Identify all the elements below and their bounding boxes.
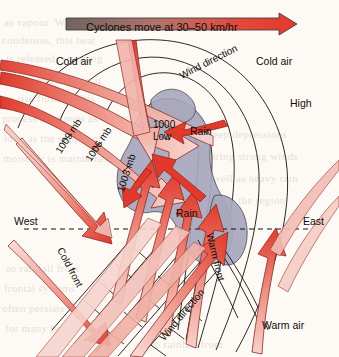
label-cold-air-right: Cold air [256, 56, 292, 67]
cyclone-diagram-svg [0, 0, 339, 357]
label-west: West [14, 216, 38, 227]
label-low-word: Low [153, 132, 171, 143]
label-rain-lower: Rain [176, 208, 198, 219]
label-low-value: 1000 [153, 120, 175, 131]
label-warm-air: Warm air [262, 320, 304, 331]
label-high: High [290, 98, 312, 109]
label-cold-air-left: Cold air [56, 56, 92, 67]
label-east: East [303, 216, 324, 227]
figure-canvas: as vapour. When water condenses, this he… [0, 0, 339, 357]
label-rain-upper: Rain [190, 126, 212, 137]
figure-title: Cyclones move at 30–50 km/hr [86, 22, 238, 34]
